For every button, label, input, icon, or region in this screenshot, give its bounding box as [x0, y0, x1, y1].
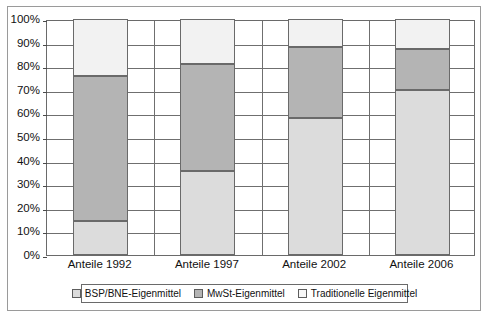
- chart-figure: 0%10%20%30%40%50%60%70%80%90%100% Anteil…: [0, 0, 488, 319]
- y-axis-tick-label: 70%: [17, 85, 40, 97]
- bar-segment: [180, 64, 235, 171]
- y-axis-tick-mark: [43, 92, 47, 93]
- y-axis-tick-mark: [43, 21, 47, 22]
- category-separator: [262, 21, 263, 255]
- y-axis-tick-label: 20%: [17, 203, 40, 215]
- bar-column: [73, 19, 128, 255]
- legend-swatch-icon: [194, 289, 203, 298]
- bar-column: [180, 19, 235, 255]
- legend-swatch-icon: [72, 289, 81, 298]
- y-axis-tick-mark: [43, 68, 47, 69]
- y-axis-tick-label: 10%: [17, 227, 40, 239]
- category-separator: [369, 21, 370, 255]
- plot-area: [46, 20, 475, 256]
- y-axis-tick-mark: [43, 210, 47, 211]
- legend-item: Traditionelle Eigenmittel: [298, 288, 417, 299]
- y-axis-tick-label: 100%: [11, 14, 40, 26]
- x-axis-tick-label: Anteile 2002: [282, 258, 346, 270]
- legend-item-label: BSP/BNE-Eigenmittel: [85, 288, 181, 299]
- y-axis-tick-label: 80%: [17, 61, 40, 73]
- y-axis-tick-label: 60%: [17, 109, 40, 121]
- y-axis-tick-mark: [43, 139, 47, 140]
- bar-segment: [73, 221, 128, 255]
- bar-segment: [180, 171, 235, 255]
- x-axis-tick-label: Anteile 2006: [389, 258, 453, 270]
- bar-segment: [73, 19, 128, 76]
- bar-segment: [288, 118, 343, 255]
- chart-legend: BSP/BNE-EigenmittelMwSt-EigenmittelTradi…: [81, 284, 408, 303]
- bar-column: [395, 19, 450, 255]
- category-separator: [154, 21, 155, 255]
- y-axis-tick-label: 40%: [17, 156, 40, 168]
- y-axis-tick-label: 90%: [17, 38, 40, 50]
- y-axis-tick-label: 50%: [17, 132, 40, 144]
- bar-segment: [73, 76, 128, 221]
- y-axis-tick-mark: [43, 163, 47, 164]
- bar-segment: [395, 19, 450, 49]
- legend-item: BSP/BNE-Eigenmittel: [72, 288, 181, 299]
- bar-segment: [288, 19, 343, 47]
- legend-item: MwSt-Eigenmittel: [194, 288, 285, 299]
- y-axis-tick-mark: [43, 186, 47, 187]
- bar-segment: [395, 90, 450, 255]
- y-axis-tick-label: 30%: [17, 179, 40, 191]
- y-axis-tick-label: 0%: [23, 250, 40, 262]
- y-axis-labels: 0%10%20%30%40%50%60%70%80%90%100%: [0, 20, 44, 256]
- bar-segment: [395, 49, 450, 90]
- x-axis-labels: Anteile 1992Anteile 1997Anteile 2002Ante…: [46, 258, 475, 276]
- legend-swatch-icon: [298, 289, 307, 298]
- bar-segment: [180, 19, 235, 64]
- x-axis-tick-label: Anteile 1997: [175, 258, 239, 270]
- x-axis-tick-label: Anteile 1992: [68, 258, 132, 270]
- y-axis-tick-mark: [43, 115, 47, 116]
- bar-segment: [288, 47, 343, 118]
- y-axis-tick-mark: [43, 45, 47, 46]
- bar-column: [288, 19, 343, 255]
- legend-item-label: MwSt-Eigenmittel: [207, 288, 285, 299]
- legend-item-label: Traditionelle Eigenmittel: [311, 288, 417, 299]
- y-axis-tick-mark: [43, 233, 47, 234]
